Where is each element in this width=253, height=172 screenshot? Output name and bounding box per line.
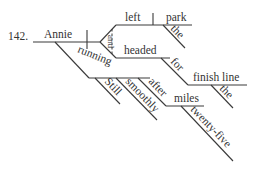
sentence-diagram: 142. Annie left park the and headed for …	[0, 0, 253, 172]
subject-word: Annie	[44, 28, 72, 40]
exercise-number: 142.	[8, 30, 28, 42]
preposition1-word: for	[169, 55, 187, 73]
prep-object1-word: finish line	[193, 71, 239, 83]
verb1-word: left	[125, 11, 141, 23]
prep-object2-word: miles	[174, 92, 199, 104]
prep-object2-modifier-word: twenty-five	[188, 103, 234, 150]
verb2-word: headed	[124, 44, 157, 56]
conjunction-word: and	[106, 35, 116, 48]
